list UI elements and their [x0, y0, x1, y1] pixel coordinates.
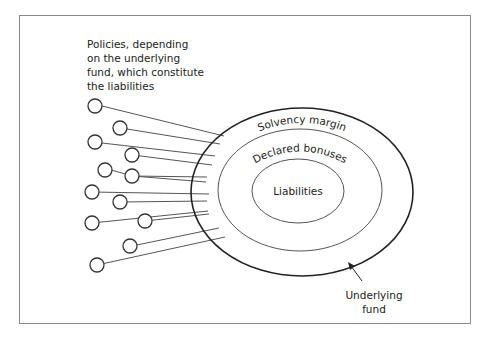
diagram-canvas: Solvency margin Declared bonuses [0, 0, 496, 351]
fund-pointer-line [351, 266, 362, 281]
policy-circles [85, 99, 152, 272]
fund-label-line: fund [344, 302, 404, 316]
liabilities-label: Liabilities [258, 184, 338, 198]
policies-description: Policies, depending on the underlying fu… [87, 37, 217, 93]
policy-connectors [92, 106, 225, 265]
fund-label-line: Underlying [344, 288, 404, 302]
declared-bonuses-label: Declared bonuses [251, 141, 350, 165]
solvency-margin-label: Solvency margin [256, 113, 349, 133]
description-line: on the underlying [87, 51, 217, 65]
description-line: fund, which constitute [87, 65, 217, 79]
description-line: Policies, depending [87, 37, 217, 51]
description-line: the liabilities [87, 79, 217, 93]
underlying-fund-label: Underlying fund [344, 288, 404, 316]
